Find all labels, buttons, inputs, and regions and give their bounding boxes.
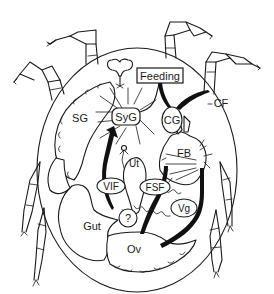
leg-right-third	[220, 162, 233, 232]
leg-right-front	[165, 22, 212, 58]
arrow-vif-to-syg	[102, 126, 118, 210]
salivary-gland-label: SG	[72, 112, 88, 124]
leg-left-front	[47, 30, 98, 64]
leg-right-second	[204, 52, 260, 94]
unknown-factor-label: ?	[125, 212, 131, 224]
neurohemal-organ	[108, 59, 133, 76]
tick-diagram: Feeding SyG SG CG CF Ut FB VIF FSF Vg ? …	[0, 0, 274, 294]
fsf-label: FSF	[146, 182, 165, 193]
vg-label: Vg	[178, 203, 190, 214]
leg-left-second	[14, 62, 64, 100]
gut-label: Gut	[83, 220, 101, 232]
vif-label: VIF	[103, 181, 119, 192]
leg-left-fourth	[33, 208, 46, 286]
cf-label: CF	[214, 97, 229, 109]
fat-body-label: FB	[177, 147, 191, 159]
ovary-label: Ov	[127, 243, 142, 255]
feeding-label: Feeding	[140, 70, 180, 82]
uterus-label: Ut	[129, 158, 139, 169]
synganglion-label: SyG	[115, 111, 136, 123]
cg-label: CG	[164, 114, 181, 126]
